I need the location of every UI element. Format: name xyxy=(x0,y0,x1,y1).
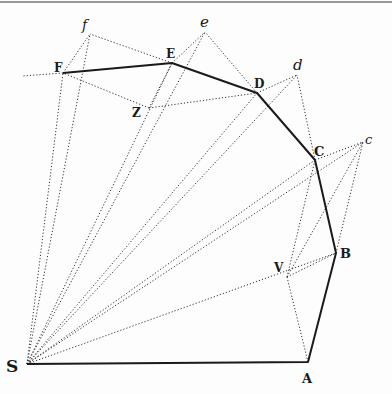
dotted-line-E-e xyxy=(172,32,205,63)
label-F: F xyxy=(54,61,63,75)
dotted-line-S-B xyxy=(27,253,336,364)
construction-lines xyxy=(22,32,363,364)
dotted-line-E-f xyxy=(90,34,172,63)
polygon-path xyxy=(27,63,336,364)
label-V: V xyxy=(273,261,284,275)
dotted-line-S-D xyxy=(27,93,257,364)
label-C: C xyxy=(314,144,324,159)
label-B: B xyxy=(340,246,351,261)
label-E: E xyxy=(166,47,175,61)
label-c: c xyxy=(365,132,373,147)
diagram-canvas: S A B C D E F Z V c d e f xyxy=(0,0,392,394)
dotted-line-S-E xyxy=(27,63,172,364)
label-A: A xyxy=(301,371,313,386)
dotted-line-V-B xyxy=(287,253,336,277)
label-e: e xyxy=(200,13,209,31)
label-f: f xyxy=(81,17,90,33)
dotted-line-C-d xyxy=(297,75,315,160)
label-Z: Z xyxy=(132,106,141,120)
dotted-line-S-F xyxy=(27,73,63,364)
label-D: D xyxy=(254,77,264,91)
dotted-line-S-e xyxy=(27,32,205,364)
dotted-line-S-c xyxy=(27,142,363,364)
label-d: d xyxy=(293,56,303,74)
dotted-line-S-C xyxy=(27,160,315,364)
dotted-line-Z-D xyxy=(149,93,257,108)
dotted-line-B-c xyxy=(336,142,363,253)
label-S: S xyxy=(6,356,18,376)
dotted-line-V-C xyxy=(287,160,315,277)
dotted-line-F-f xyxy=(63,34,90,73)
orbit-polygon-diagram: S A B C D E F Z V c d e f xyxy=(0,0,392,394)
dotted-line-S-d xyxy=(27,75,297,364)
dotted-line-Z-F xyxy=(63,73,149,108)
dotted-line-S-f xyxy=(27,34,90,364)
dotted-line-V-A xyxy=(287,277,308,362)
dotted-line-c-V xyxy=(287,142,363,277)
